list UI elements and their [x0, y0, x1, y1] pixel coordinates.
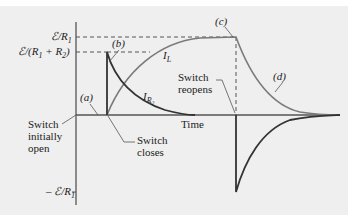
leader-c	[225, 27, 233, 37]
label-i-r2: IR₂	[143, 91, 154, 106]
leader-d	[275, 82, 283, 92]
label-e-over-r1: ℰ/R1	[51, 31, 72, 46]
i-r2-negative-curve	[236, 115, 340, 192]
annotation-switch-closes: Switch closes	[137, 134, 168, 158]
label-point-b: (b)	[112, 38, 125, 49]
annotation-switch-initially-open: Switch initially open	[28, 118, 62, 154]
label-i-l: IL	[163, 50, 171, 65]
leader-a	[90, 104, 98, 115]
leader-closes	[108, 116, 135, 142]
label-neg-e-over-r1: – ℰ/R1	[46, 186, 75, 201]
label-point-a: (a)	[80, 92, 93, 103]
label-time: Time	[181, 119, 204, 130]
label-point-c: (c)	[215, 16, 227, 27]
label-point-d: (d)	[273, 71, 286, 82]
label-e-over-r1-plus-r2: ℰ/(R1 + R2)	[18, 46, 70, 61]
leader-reopens	[216, 80, 235, 113]
annotation-switch-reopens: Switch reopens	[178, 71, 212, 95]
leader-initially-open	[62, 115, 76, 124]
i-l-curve	[107, 37, 340, 115]
